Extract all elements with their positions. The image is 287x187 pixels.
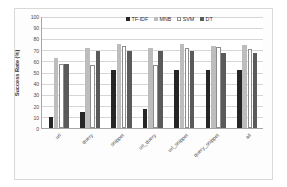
x-label-cell: url_query	[137, 130, 169, 180]
y-tick-label: 30	[34, 92, 39, 98]
x-label-cell: snippet	[105, 130, 137, 180]
bar-dt-url_snippet	[190, 51, 195, 128]
chart-screenshot: Success Rate (%) 1009080706050403020100 …	[0, 0, 287, 187]
legend-swatch-icon	[154, 17, 158, 21]
chart-legend: TF-IDFMNBSVMDT	[126, 16, 213, 22]
x-label-cell: query_snippet	[201, 130, 233, 180]
bar-tf-idf-query	[80, 112, 85, 128]
bar-svm-query	[90, 65, 95, 128]
bar-mnb-query_snippet	[211, 46, 216, 128]
bar-group	[74, 17, 105, 128]
y-tick-label: 90	[34, 25, 39, 31]
bar-group	[43, 17, 74, 128]
bar-dt-url	[64, 64, 69, 128]
bar-mnb-all	[242, 45, 247, 128]
y-tick-label: 100	[31, 14, 39, 20]
legend-swatch-icon	[126, 17, 130, 21]
bar-tf-idf-snippet	[111, 70, 116, 128]
bar-svm-snippet	[122, 46, 127, 128]
gridline: 0	[42, 128, 263, 129]
x-tick-label: all	[244, 132, 252, 140]
bar-dt-url_query	[158, 51, 163, 128]
legend-swatch-icon	[177, 17, 181, 21]
bar-tf-idf-url	[49, 117, 54, 128]
bar-mnb-url	[54, 58, 59, 128]
bar-group	[106, 17, 137, 128]
legend-item-dt[interactable]: DT	[200, 16, 212, 22]
bar-svm-url_snippet	[185, 48, 190, 128]
legend-label: MNB	[160, 16, 172, 22]
legend-swatch-icon	[200, 17, 204, 21]
bar-svm-query_snippet	[216, 47, 221, 128]
bar-tf-idf-query_snippet	[206, 70, 211, 128]
legend-label: DT	[206, 16, 213, 22]
bar-dt-query	[96, 51, 101, 128]
bar-group	[137, 17, 168, 128]
y-axis-title: Success Rate (%)	[14, 50, 20, 97]
x-label-cell: url	[42, 130, 74, 180]
y-tick-label: 40	[34, 81, 39, 87]
y-tick-label: 60	[34, 59, 39, 65]
plot-area: 1009080706050403020100	[41, 17, 263, 129]
y-tick-label: 20	[34, 104, 39, 110]
bar-group	[200, 17, 231, 128]
y-tick-label: 0	[36, 126, 39, 132]
y-tick-label: 70	[34, 48, 39, 54]
bar-tf-idf-url_query	[143, 109, 148, 128]
bar-tf-idf-url_snippet	[174, 70, 179, 128]
x-tick-label: query	[80, 132, 93, 145]
legend-item-svm[interactable]: SVM	[177, 16, 194, 22]
x-tick-label: url	[54, 132, 62, 140]
x-tick-label: url_snippet	[166, 132, 189, 153]
bar-tf-idf-all	[237, 70, 242, 128]
bar-svm-all	[248, 49, 253, 128]
x-tick-label: snippet	[109, 132, 125, 147]
x-label-cell: query	[74, 130, 106, 180]
bar-mnb-url_query	[148, 48, 153, 128]
legend-label: SVM	[183, 16, 194, 22]
bar-mnb-snippet	[117, 44, 122, 128]
bar-dt-all	[253, 53, 258, 128]
y-tick-label: 10	[34, 115, 39, 121]
bar-group	[169, 17, 200, 128]
x-label-cell: all	[232, 130, 264, 180]
x-tick-label: url_query	[137, 132, 157, 151]
x-axis-labels: urlquerysnippeturl_queryurl_snippetquery…	[42, 130, 264, 180]
legend-item-tf-idf[interactable]: TF-IDF	[126, 16, 148, 22]
bar-mnb-query	[85, 48, 90, 128]
y-tick-label: 50	[34, 70, 39, 76]
bar-dt-query_snippet	[221, 53, 226, 128]
legend-item-mnb[interactable]: MNB	[154, 16, 171, 22]
y-tick-label: 80	[34, 36, 39, 42]
bar-svm-url_query	[153, 65, 158, 128]
legend-label: TF-IDF	[131, 16, 148, 22]
bar-group	[232, 17, 263, 128]
bar-dt-snippet	[127, 51, 132, 128]
bar-groups	[43, 17, 263, 128]
bar-svm-url	[59, 64, 64, 128]
bar-mnb-url_snippet	[180, 44, 185, 128]
